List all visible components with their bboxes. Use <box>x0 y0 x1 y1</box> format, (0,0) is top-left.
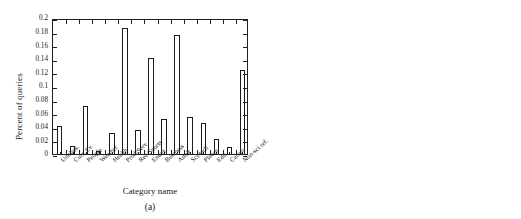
x-tick-mark <box>79 20 80 24</box>
y-tick-label: 0.2 <box>20 15 48 22</box>
y-tick-mark <box>53 115 57 116</box>
y-tick-label: 0.06 <box>20 111 48 118</box>
x-tick-mark <box>66 20 67 24</box>
x-tick-mark <box>105 20 106 24</box>
y-tick-mark <box>53 74 57 75</box>
x-tick-mark <box>184 20 185 24</box>
x-tick-mark <box>131 20 132 24</box>
y-tick-label: 0.08 <box>20 97 48 104</box>
x-tick-mark <box>171 20 172 24</box>
x-tick-mark <box>92 20 93 24</box>
y-tick-mark <box>53 34 57 35</box>
bar-series-a <box>53 20 247 154</box>
y-tick-label: 0.14 <box>20 56 48 63</box>
x-tick-mark <box>118 20 119 24</box>
y-tick-mark <box>243 142 247 143</box>
bar <box>122 28 127 154</box>
y-tick-mark <box>243 102 247 103</box>
chart-panel-a: Percent of queries 00.020.040.060.080.10… <box>0 0 260 219</box>
y-tick-mark <box>53 142 57 143</box>
y-tick-mark <box>53 102 57 103</box>
y-tick-label: 0.02 <box>20 138 48 145</box>
y-tick-mark <box>53 20 57 21</box>
y-tick-label: 0.04 <box>20 124 48 131</box>
y-tick-mark <box>243 47 247 48</box>
y-tick-label: 0 <box>20 151 48 158</box>
chart-panel-b: Query length (words) 1.61.822.22.42.62.8… <box>261 0 521 219</box>
x-tick-mark-minor <box>60 152 61 154</box>
panel-caption-a: (a) <box>52 202 248 212</box>
y-tick-label: 0.12 <box>20 70 48 77</box>
bar <box>57 126 62 154</box>
x-tick-mark <box>197 20 198 24</box>
y-tick-label: 0.1 <box>20 83 48 90</box>
y-tick-mark <box>53 156 57 157</box>
y-tick-mark <box>53 129 57 130</box>
x-tick-mark <box>236 20 237 24</box>
y-tick-mark <box>53 61 57 62</box>
x-tick-mark <box>144 20 145 24</box>
y-tick-mark <box>243 88 247 89</box>
y-tick-label: 0.16 <box>20 43 48 50</box>
bar <box>174 35 179 154</box>
x-axis-title-a: Category name <box>52 186 248 196</box>
figure-two-bar-charts: Percent of queries 00.020.040.060.080.10… <box>0 0 521 219</box>
y-tick-mark <box>243 20 247 21</box>
plot-area-a <box>52 19 248 155</box>
y-tick-mark <box>243 129 247 130</box>
x-tick-mark-minor <box>229 152 230 154</box>
y-tick-mark <box>53 47 57 48</box>
y-tick-mark <box>243 115 247 116</box>
bar <box>148 58 153 154</box>
x-tick-mark <box>223 20 224 24</box>
y-tick-mark <box>53 88 57 89</box>
y-tick-label: 0.18 <box>20 29 48 36</box>
y-tick-mark <box>243 34 247 35</box>
y-tick-mark <box>243 74 247 75</box>
x-tick-mark <box>210 20 211 24</box>
y-tick-mark <box>243 61 247 62</box>
x-tick-mark <box>158 20 159 24</box>
